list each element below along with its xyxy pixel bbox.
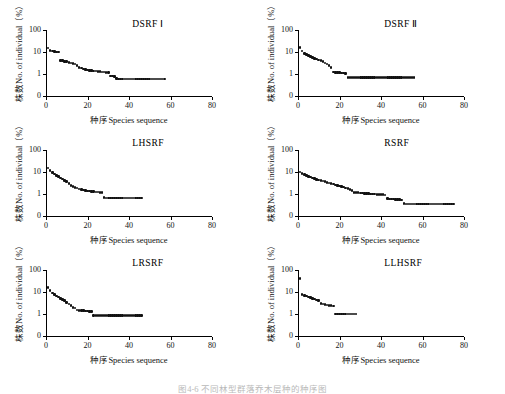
data-point <box>452 203 455 206</box>
x-axis-title: 种序Species sequence <box>46 233 212 245</box>
chart-panel-rsrf: RSRF0110100020406080株数No. of individual（… <box>252 134 505 246</box>
y-axis-title: 株数No. of individual（%） <box>264 1 276 102</box>
data-point <box>344 72 347 75</box>
data-point <box>299 277 302 280</box>
data-point <box>107 71 110 74</box>
data-series <box>252 134 505 246</box>
data-series <box>0 134 252 246</box>
data-point <box>140 314 143 317</box>
data-point <box>330 66 333 69</box>
chart-panel-dsrf-ⅱ: DSRF Ⅱ0110100020406080株数No. of individua… <box>252 0 505 134</box>
y-axis-title: 株数No. of individual（%） <box>264 121 276 222</box>
chart-panel-lrsrf: LRSRF0110100020406080株数No. of individual… <box>0 246 252 370</box>
data-point <box>355 313 358 316</box>
y-axis-title: 株数No. of individual（%） <box>12 1 24 102</box>
y-axis-title: 株数No. of individual（%） <box>264 241 276 342</box>
x-axis-title: 种序Species sequence <box>298 233 464 245</box>
data-point <box>163 78 166 81</box>
chart-panel-lhsrf: LHSRF0110100020406080株数No. of individual… <box>0 134 252 246</box>
data-series <box>0 246 252 370</box>
data-point <box>101 191 104 194</box>
chart-panel-dsrf-ⅰ: DSRF Ⅰ0110100020406080株数No. of individua… <box>0 0 252 134</box>
data-point <box>413 76 416 79</box>
figure-caption: 图4-6 不同林型群落乔木层种的种序图 <box>0 382 505 394</box>
chart-panel-llhsrf: LLHSRF0110100020406080株数No. of individua… <box>252 246 505 370</box>
x-axis-title: 种序Species sequence <box>46 353 212 365</box>
x-axis-title: 种序Species sequence <box>46 113 212 125</box>
y-axis-title: 株数No. of individual（%） <box>12 121 24 222</box>
data-point <box>140 197 143 200</box>
data-point <box>384 194 387 197</box>
data-point <box>57 51 60 54</box>
x-axis-title: 种序Species sequence <box>298 353 464 365</box>
data-point <box>90 310 93 313</box>
y-axis-title: 株数No. of individual（%） <box>12 241 24 342</box>
data-point <box>299 46 302 49</box>
data-point <box>400 199 403 202</box>
data-series <box>252 246 505 370</box>
data-point <box>332 305 335 308</box>
x-axis-title: 种序Species sequence <box>298 113 464 125</box>
